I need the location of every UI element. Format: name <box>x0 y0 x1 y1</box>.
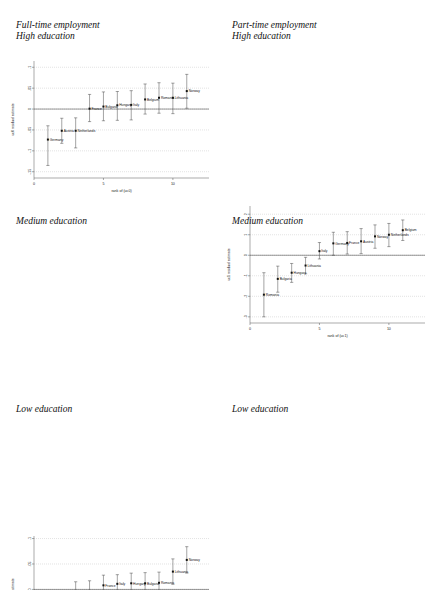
panel-title-parttime-medium: Medium education <box>232 216 303 227</box>
svg-text:-2: -2 <box>244 295 248 298</box>
svg-text:Italy: Italy <box>133 103 139 107</box>
svg-text:Romania: Romania <box>266 293 279 297</box>
panel-title-line1: Medium education <box>16 216 87 226</box>
svg-text:.1: .1 <box>28 537 32 540</box>
svg-text:Belgium: Belgium <box>147 98 159 102</box>
panel-title-line1: Part-time employment <box>232 20 317 30</box>
svg-text:.05: .05 <box>28 86 32 91</box>
svg-text:10: 10 <box>171 182 175 186</box>
svg-text:Hungary: Hungary <box>133 582 146 586</box>
svg-text:Lithuania: Lithuania <box>307 264 321 268</box>
svg-text:.1: .1 <box>28 66 32 69</box>
svg-text:Netherlands: Netherlands <box>391 233 409 237</box>
figure-root: Full-time employmentHigh education .1.05… <box>0 0 435 590</box>
svg-text:Hungary: Hungary <box>294 271 307 275</box>
panel-title-fulltime-medium: Medium education <box>16 216 87 227</box>
svg-text:Norway: Norway <box>377 235 389 239</box>
svg-text:Hungary: Hungary <box>119 103 132 107</box>
panel-title-fulltime-high: Full-time employmentHigh education <box>16 20 100 42</box>
svg-text:1: 1 <box>244 234 248 236</box>
svg-text:Italy: Italy <box>321 249 327 253</box>
svg-text:0: 0 <box>33 182 35 186</box>
svg-text:-.05: -.05 <box>28 127 32 133</box>
panel-title-line1: Low education <box>232 404 288 414</box>
svg-text:Austria: Austria <box>64 129 74 133</box>
chart-canvas-p1: .1.050-.05-.1-.150510rank of (uc0)uc0 re… <box>8 55 213 200</box>
panel-title-line1: Low education <box>16 404 72 414</box>
svg-text:10: 10 <box>387 327 391 331</box>
svg-text:-3: -3 <box>244 315 248 318</box>
svg-text:5: 5 <box>102 182 104 186</box>
svg-text:0: 0 <box>28 108 32 110</box>
panel-title-line1: Full-time employment <box>16 20 100 30</box>
svg-text:Lithuania: Lithuania <box>175 96 189 100</box>
plot-fulltime-high: .1.050-.05-.1-.150510rank of (uc0)uc0 re… <box>8 55 435 200</box>
svg-text:Norway: Norway <box>189 558 201 562</box>
svg-text:uc0 residual estimate: uc0 residual estimate <box>11 103 15 135</box>
svg-text:France: France <box>91 107 101 111</box>
svg-text:Italy: Italy <box>119 582 125 586</box>
svg-text:Austria: Austria <box>363 240 373 244</box>
svg-text:France: France <box>349 241 359 245</box>
svg-text:Bulgaria: Bulgaria <box>147 582 159 586</box>
svg-text:-1: -1 <box>244 274 248 277</box>
svg-text:0: 0 <box>244 254 248 256</box>
panel-title-line1: Medium education <box>232 216 303 226</box>
svg-text:-.15: -.15 <box>28 169 32 175</box>
svg-text:Bulgaria: Bulgaria <box>105 105 117 109</box>
svg-text:Netherlands: Netherlands <box>78 129 96 133</box>
svg-text:Bulgaria: Bulgaria <box>280 277 292 281</box>
panel-title-parttime-low: Low education <box>232 404 288 415</box>
panel-title-line2: High education <box>232 31 291 41</box>
panel-title-fulltime-low: Low education <box>16 404 72 415</box>
svg-text:.05: .05 <box>28 561 32 566</box>
plot-fulltime-medium: .1.050-.05-.10510rank of (uc0)uc0 residu… <box>8 530 435 590</box>
chart-canvas-p3: .1.050-.05-.10510rank of (uc0)uc0 residu… <box>8 530 213 590</box>
panel-title-parttime-high: Part-time employmentHigh education <box>232 20 317 42</box>
panel-title-line2: High education <box>16 31 75 41</box>
svg-text:uc1 residual estimate: uc1 residual estimate <box>227 248 231 280</box>
svg-text:France: France <box>105 584 115 588</box>
svg-text:5: 5 <box>318 327 320 331</box>
svg-text:Norway: Norway <box>189 89 201 93</box>
svg-text:-.1: -.1 <box>28 149 32 153</box>
svg-text:rank of (uc0): rank of (uc0) <box>111 189 131 193</box>
svg-text:uc0 residual estimate: uc0 residual estimate <box>11 578 15 590</box>
svg-text:Belgium: Belgium <box>405 228 417 232</box>
svg-text:rank of (uc1): rank of (uc1) <box>327 334 347 338</box>
svg-text:2: 2 <box>244 213 248 215</box>
svg-text:0: 0 <box>249 327 251 331</box>
